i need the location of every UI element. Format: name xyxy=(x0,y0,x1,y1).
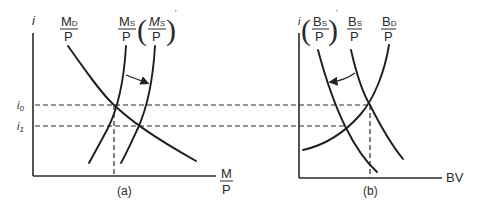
panel-b: i ( BS P ) ' BS P BD P BV xyxy=(298,8,464,198)
shift-arrow-left-icon xyxy=(331,73,355,82)
label-bond-supply: BS P xyxy=(347,14,362,44)
svg-text:P: P xyxy=(350,29,359,44)
svg-text:MD: MD xyxy=(61,14,78,29)
money-demand-curve xyxy=(68,46,196,161)
svg-text:P: P xyxy=(315,29,324,44)
svg-text:M: M xyxy=(221,166,232,181)
tick-label-i0: i0 xyxy=(17,99,24,113)
label-bond-supply-shifted: ( BS P ) ' xyxy=(301,8,338,47)
svg-text:MS: MS xyxy=(119,14,135,29)
svg-text:): ) xyxy=(328,13,338,47)
panel-a-caption: (a) xyxy=(117,184,132,198)
svg-text:P: P xyxy=(64,29,73,44)
panel-a-x-axis-label: M P xyxy=(220,166,233,197)
svg-text:MS: MS xyxy=(149,14,166,29)
label-money-supply: MS P xyxy=(118,14,136,44)
svg-text:BS: BS xyxy=(313,14,327,29)
tick-label-i1: i1 xyxy=(17,120,24,134)
svg-text:BD: BD xyxy=(382,14,397,29)
panel-a-y-axis-label: i xyxy=(32,13,36,28)
svg-text:P: P xyxy=(122,29,131,44)
svg-text:(: ( xyxy=(137,13,147,47)
svg-text:P: P xyxy=(384,29,393,44)
bond-supply-shifted-curve xyxy=(318,50,377,172)
bond-demand-curve xyxy=(303,45,389,150)
svg-text:P: P xyxy=(152,29,161,44)
money-bond-market-diagram: i i0 i1 MD P MS P xyxy=(0,0,481,202)
svg-text:BS: BS xyxy=(348,14,362,29)
panel-b-caption: (b) xyxy=(363,184,378,198)
svg-text:': ' xyxy=(175,8,177,17)
svg-text:(: ( xyxy=(301,13,311,47)
panel-b-x-axis-label: BV xyxy=(446,170,464,185)
svg-text:P: P xyxy=(222,182,231,197)
label-money-supply-shifted: ( MS P ) ' xyxy=(137,8,177,47)
label-money-demand: MD P xyxy=(60,14,78,44)
label-bond-demand: BD P xyxy=(381,14,397,44)
svg-text:): ) xyxy=(166,13,176,47)
shift-arrow-right-icon xyxy=(126,75,147,83)
